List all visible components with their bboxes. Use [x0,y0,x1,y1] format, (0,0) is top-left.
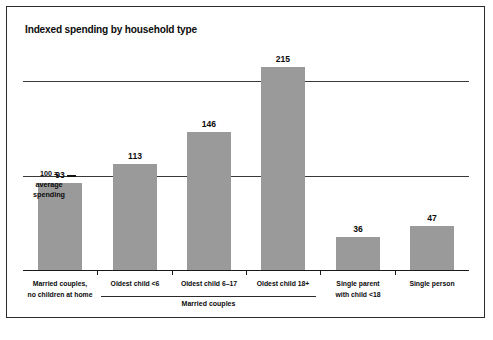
category-label-oldest-child-under-6: Oldest child <6 [103,278,166,289]
category-label-line: Single person [409,279,454,288]
bar-oldest-child-under-6[interactable] [113,164,157,271]
category-label-line: Oldest child 6–17 [181,279,237,288]
category-label-line: no children at home [28,290,93,299]
bar-value-label: 113 [115,150,155,161]
axis-tick [320,271,321,275]
average-note-line3: spending [33,190,65,199]
axis-tick [246,271,247,275]
gridline-200 [23,81,469,82]
average-note-line1: 100 = [40,169,58,178]
category-label-oldest-child-6-17: Oldest child 6–17 [177,278,240,289]
average-spending-note: 100 = average spending [24,169,74,201]
gridline-100 [23,176,469,177]
axis-tick [172,271,173,275]
average-note-line2: average [35,180,62,189]
category-label-oldest-child-18-plus: Oldest child 18+ [252,278,315,289]
bar-value-label: 36 [338,223,378,234]
category-label-line: Oldest child 18+ [257,279,310,288]
axis-tick [97,271,98,275]
category-label-single-parent: Single parent with child <18 [319,278,396,300]
category-label-line: Oldest child <6 [110,279,159,288]
bar-oldest-child-18-plus[interactable] [261,67,305,271]
chart-title: Indexed spending by household type [25,23,197,35]
bar-single-person[interactable] [410,226,454,271]
axis-tick [395,271,396,275]
category-label-line: Married couples, [33,279,87,288]
group-bracket-label: Married couples [112,299,306,308]
plot-area: 93 113 146 215 36 47 [23,43,469,271]
chart-frame: Indexed spending by household type 93 11… [6,6,485,318]
bar-value-label: 47 [412,212,452,223]
category-label-single-person: Single person [400,278,463,289]
bar-value-label: 215 [263,53,303,64]
group-bracket-line [101,296,316,297]
category-label-married-no-children: Married couples, no children at home [21,278,98,300]
category-label-line: with child <18 [335,290,380,299]
bar-oldest-child-6-17[interactable] [187,132,231,271]
category-label-line: Single parent [336,279,379,288]
bar-value-label: 146 [189,118,229,129]
bar-single-parent[interactable] [336,237,380,271]
